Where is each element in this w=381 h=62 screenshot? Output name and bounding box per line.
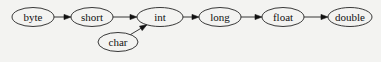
edge-float-to-double — [304, 14, 328, 19]
node-char: char — [98, 33, 138, 52]
node-label: long — [210, 11, 230, 23]
arrowhead-icon — [255, 14, 262, 19]
arrowhead-icon — [140, 25, 147, 31]
edge-byte-to-short — [54, 14, 71, 19]
node-double: double — [328, 8, 372, 27]
node-byte: byte — [12, 8, 54, 27]
arrowhead-icon — [192, 14, 199, 19]
edge-line — [130, 28, 140, 34]
node-label: double — [335, 11, 365, 23]
node-label: byte — [24, 11, 43, 23]
node-int: int — [137, 8, 183, 27]
node-long: long — [199, 8, 241, 27]
type-conversion-diagram: byteshortintcharlongfloatdouble — [0, 0, 381, 62]
edge-long-to-float — [241, 14, 262, 19]
edge-short-to-int — [113, 14, 137, 19]
node-label: int — [154, 11, 166, 23]
arrowhead-icon — [130, 14, 137, 19]
node-short: short — [71, 8, 113, 27]
node-label: short — [81, 11, 103, 23]
arrowhead-icon — [64, 14, 71, 19]
node-label: float — [273, 11, 293, 23]
node-float: float — [262, 8, 304, 27]
edge-char-to-int — [130, 25, 146, 35]
edge-int-to-long — [183, 14, 199, 19]
arrowhead-icon — [321, 14, 328, 19]
node-label: char — [109, 36, 128, 48]
